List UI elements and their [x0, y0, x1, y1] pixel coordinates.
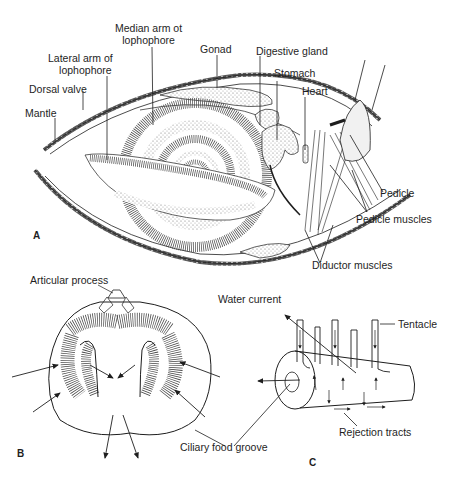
label-gonad: Gonad	[200, 43, 232, 55]
pedicle-shape	[340, 100, 370, 161]
label-median-arm: Median arm ot lophophore	[115, 22, 182, 46]
label-ciliary-food-groove: Ciliary food groove	[180, 441, 268, 453]
label-lateral-arm: Lateral arm of lophophore	[48, 52, 113, 76]
heart-shape	[303, 145, 308, 163]
label-tentacle: Tentacle	[398, 318, 437, 330]
label-rejection-tracts: Rejection tracts	[339, 426, 411, 438]
gonad-shape	[160, 87, 272, 107]
dorsal-valve-shape	[44, 75, 380, 150]
panel-a-drawing	[35, 60, 410, 264]
label-diductor-muscles: Diductor muscles	[312, 259, 393, 271]
label-median-arm-line1: Median arm ot	[115, 22, 182, 34]
stomach-shape	[262, 125, 298, 170]
label-digestive-gland: Digestive gland	[256, 45, 328, 57]
label-lateral-arm-line1: Lateral arm of	[48, 52, 113, 64]
label-heart: Heart	[302, 85, 328, 97]
panel-letter-b: B	[17, 448, 24, 459]
panel-letter-c: C	[309, 457, 316, 468]
label-lateral-arm-line2: lophophore	[48, 64, 113, 76]
label-dorsal-valve: Dorsal valve	[29, 83, 87, 95]
label-articular-process: Articular process	[30, 274, 108, 286]
label-stomach: Stomach	[274, 67, 315, 79]
label-mantle: Mantle	[25, 107, 57, 119]
label-water-current: Water current	[218, 293, 281, 305]
panel-b-drawing	[12, 285, 220, 458]
label-median-arm-line2: lophophore	[115, 34, 182, 46]
panel-letter-a: A	[33, 230, 40, 241]
label-pedicle: Pedicle	[380, 187, 414, 199]
label-pedicle-muscles: Pedicle muscles	[356, 213, 432, 225]
